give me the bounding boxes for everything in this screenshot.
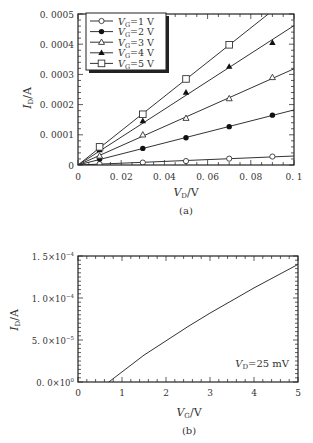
x-tick-label: 5 xyxy=(295,388,301,398)
chart-b-x-tick-labels: 012345 xyxy=(75,388,301,398)
x-tick-label: 1 xyxy=(119,388,125,398)
open-triangle-marker xyxy=(226,95,232,100)
x-tick-label: 4 xyxy=(251,388,257,398)
open-circle-marker xyxy=(270,154,275,159)
y-tick-label: 5. 0×10−5 xyxy=(32,335,75,346)
open-triangle-marker xyxy=(269,74,275,79)
open-square-marker xyxy=(226,42,233,49)
chart-b-x-axis-label: VG/V xyxy=(176,406,202,420)
open-square-marker xyxy=(98,60,105,67)
open-circle-marker xyxy=(227,156,232,161)
open-square-marker xyxy=(183,76,190,83)
chart-b-caption: (b) xyxy=(182,425,196,436)
x-tick-label: 0. 1 xyxy=(285,172,302,182)
series-3 xyxy=(78,69,294,165)
y-tick-label: 0. 0005 xyxy=(40,10,75,20)
x-tick-label: 0. 08 xyxy=(239,172,262,182)
chart-b-annotation: VD=25 mV xyxy=(235,358,290,371)
y-tick-label: 0. 0001 xyxy=(40,130,74,140)
open-triangle-marker xyxy=(140,132,146,137)
y-tick-label: 0. 0×100 xyxy=(36,377,74,388)
filled-circle-marker xyxy=(99,29,104,34)
y-tick-label: 1. 0×10−4 xyxy=(32,293,75,304)
y-tick-label: 0. 0004 xyxy=(40,40,75,50)
x-tick-label: 0. 02 xyxy=(110,172,133,182)
y-tick-label: 1. 5×10−4 xyxy=(32,251,75,262)
chart-a-x-tick-labels: 00. 020. 040. 060. 080. 1 xyxy=(75,172,302,182)
filled-circle-marker xyxy=(140,146,145,151)
chart-a-x-axis-label: VD/V xyxy=(173,186,199,200)
chart-a-y-axis-label: ID/A xyxy=(21,86,35,110)
y-tick-label: 0. 0003 xyxy=(40,70,75,80)
filled-triangle-marker xyxy=(183,89,189,95)
filled-circle-marker xyxy=(227,124,232,129)
open-circle-marker xyxy=(97,161,102,166)
chart-a-legend: VG=1 VVG=2 VVG=3 VVG=4 VVG=5 V xyxy=(86,13,169,73)
chart-b: 0. 0×1005. 0×10−51. 0×10−41. 5×10−4 0123… xyxy=(8,251,301,437)
chart-a-caption: (a) xyxy=(179,205,193,216)
y-tick-label: 0. 0002 xyxy=(40,100,74,110)
x-tick-label: 0. 06 xyxy=(196,172,219,182)
figure: 00. 00010. 00020. 00030. 00040. 0005 00.… xyxy=(0,0,313,443)
open-circle-marker xyxy=(183,158,188,163)
open-square-marker xyxy=(96,144,103,151)
chart-b-y-tick-labels: 0. 0×1005. 0×10−51. 0×10−41. 5×10−4 xyxy=(32,251,75,388)
filled-triangle-marker xyxy=(269,39,275,45)
open-circle-marker xyxy=(99,18,104,23)
x-tick-label: 2 xyxy=(163,388,169,398)
filled-circle-marker xyxy=(270,112,275,117)
chart-a: 00. 00010. 00020. 00030. 00040. 0005 00.… xyxy=(21,10,303,217)
y-tick-label: 0 xyxy=(68,161,74,171)
chart-b-y-axis-label: ID/A xyxy=(8,308,22,332)
x-tick-label: 0 xyxy=(75,388,81,398)
open-square-marker xyxy=(140,111,147,118)
open-triangle-marker xyxy=(97,153,103,158)
filled-triangle-marker xyxy=(140,118,146,124)
filled-circle-marker xyxy=(183,135,188,140)
x-tick-label: 3 xyxy=(207,388,213,398)
x-tick-label: 0 xyxy=(75,172,81,182)
x-tick-label: 0. 04 xyxy=(153,172,176,182)
chart-a-y-tick-labels: 00. 00010. 00020. 00030. 00040. 0005 xyxy=(40,10,75,171)
